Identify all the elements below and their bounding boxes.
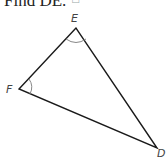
triangle-def [19,28,157,148]
vertex-label-f: F [6,83,13,96]
vertex-label-d: D [157,147,165,160]
triangle-diagram: E F D [0,0,168,162]
vertex-label-e: E [71,12,78,25]
angle-mark-f [29,79,32,94]
